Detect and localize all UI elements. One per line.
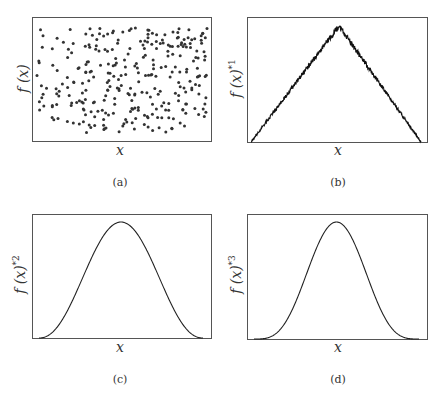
x-axis-label-d: x [328,339,348,355]
caption-d: (d) [323,373,353,386]
y-axis-label-d: f (x)*3 [227,240,244,310]
x-axis-label-b: x [328,142,348,158]
scatter-points [33,18,211,141]
y-axis-label-c: f (x)*2 [11,240,28,310]
caption-b: (b) [323,176,353,189]
x-axis-label-c: x [110,339,130,355]
line-curve-b [248,18,427,142]
plot-area-c [32,214,212,339]
plot-area-d [247,214,428,340]
x-axis-label-a: x [110,142,130,158]
plot-area-a [32,17,212,142]
y-axis-label-b: f (x)*1 [227,44,244,114]
y-axis-label-a: f (x) [14,49,31,109]
caption-a: (a) [105,176,135,189]
plot-area-b [247,17,428,143]
line-curve-c [33,215,211,338]
line-curve-d [248,215,427,339]
caption-c: (c) [105,373,135,386]
